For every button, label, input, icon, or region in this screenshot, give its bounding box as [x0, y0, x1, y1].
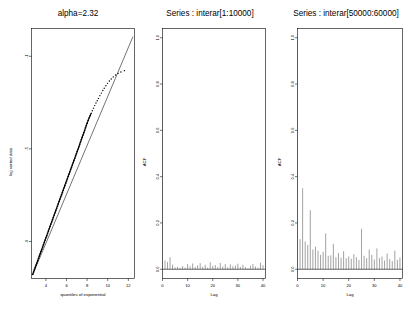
qq-data-point — [98, 98, 99, 99]
acf1-y-tick-label: 0.4 — [155, 173, 160, 179]
acf2-y-axis-label: ACF — [277, 157, 282, 166]
acf1-x-axis-ticks: 010203040 — [161, 279, 266, 288]
acf2-y-tick-label: 0.2 — [290, 219, 295, 225]
acf1-y-tick-label: 0.2 — [155, 219, 160, 225]
qq-data-points — [32, 70, 125, 275]
acf1-y-tick-label: 1.0 — [155, 34, 160, 40]
acf2-y-tick-label: 0.6 — [290, 127, 295, 133]
acf1-title: Series : interar[1:10000] — [166, 9, 253, 18]
qq-data-point — [91, 113, 92, 114]
qq-data-point — [107, 83, 108, 84]
acf2-x-tick-label: 10 — [321, 283, 326, 288]
acf2-x-axis-ticks: 010203040 — [296, 279, 403, 288]
figure-canvas: alpha=2.32 -1-5-9 4681012 quantiles of e… — [0, 0, 412, 321]
acf2-x-tick-label: 40 — [398, 283, 403, 288]
acf2-x-tick-label: 30 — [372, 283, 377, 288]
qq-data-point — [109, 80, 110, 81]
panel-acf-series-2: Series : interar[50000:60000] 0.00.20.40… — [273, 0, 412, 321]
acf1-y-axis-label: ACF — [142, 157, 147, 166]
panel-acf-series-1: Series : interar[1:10000] 0.00.20.40.60.… — [138, 0, 275, 321]
acf1-x-tick-label: 20 — [210, 283, 215, 288]
qq-x-tick-label: 12 — [126, 283, 131, 288]
qq-data-point — [101, 92, 102, 93]
acf2-bars — [298, 38, 400, 269]
acf2-y-axis-ticks: 0.00.20.40.60.81.0 — [290, 34, 298, 272]
acf1-y-tick-label: 0.8 — [155, 80, 160, 86]
acf2-frame — [298, 29, 403, 279]
qq-x-axis-label: quantiles of exponential — [60, 292, 105, 297]
qq-data-point — [113, 76, 114, 77]
qq-y-axis-ticks: -1-5-9 — [24, 54, 32, 244]
qq-y-tick-label: -1 — [24, 54, 29, 58]
acf2-x-tick-label: 0 — [296, 283, 299, 288]
qq-data-point — [93, 107, 94, 108]
qq-y-axis-label: log sorted data — [8, 147, 13, 176]
acf2-y-tick-label: 0.8 — [290, 80, 295, 86]
qq-y-tick-label: -5 — [24, 146, 29, 150]
qq-y-tick-label: -9 — [24, 239, 29, 243]
qq-data-point — [102, 90, 103, 91]
qq-reference-line — [33, 37, 133, 275]
acf1-frame — [163, 29, 266, 279]
qq-plot-title: alpha=2.32 — [58, 9, 99, 18]
qq-data-point — [115, 74, 116, 75]
acf2-y-tick-label: 0.4 — [290, 173, 295, 179]
acf1-svg: Series : interar[1:10000] 0.00.20.40.60.… — [138, 0, 275, 321]
qq-x-tick-label: 10 — [105, 283, 110, 288]
qq-data-point — [124, 70, 125, 71]
acf2-title: Series : interar[50000:60000] — [293, 9, 399, 18]
acf2-y-tick-label: 1.0 — [290, 34, 295, 40]
qq-data-point — [120, 71, 121, 72]
acf1-y-tick-label: 0.6 — [155, 127, 160, 133]
qq-x-tick-label: 6 — [65, 283, 68, 288]
acf1-x-tick-label: 0 — [161, 283, 164, 288]
qq-data-point — [95, 102, 96, 103]
acf2-y-tick-label: 0.0 — [290, 266, 295, 272]
qq-data-point — [111, 78, 112, 79]
qq-x-tick-label: 4 — [45, 283, 48, 288]
qq-data-point — [104, 88, 105, 89]
acf1-x-tick-label: 30 — [236, 283, 241, 288]
acf1-bars — [163, 38, 263, 269]
acf1-x-tick-label: 10 — [185, 283, 190, 288]
acf1-y-axis-ticks: 0.00.20.40.60.81.0 — [155, 34, 163, 272]
acf1-y-tick-label: 0.0 — [155, 266, 160, 272]
acf1-x-axis-label: Lag — [210, 292, 218, 297]
acf2-x-tick-label: 20 — [346, 283, 351, 288]
qq-data-point — [92, 110, 93, 111]
qq-x-tick-label: 8 — [86, 283, 89, 288]
acf1-x-tick-label: 40 — [261, 283, 266, 288]
qq-data-point — [105, 85, 106, 86]
qq-x-axis-ticks: 4681012 — [45, 279, 132, 288]
qq-data-point — [94, 105, 95, 106]
qq-data-point — [97, 100, 98, 101]
qq-plot-svg: alpha=2.32 -1-5-9 4681012 quantiles of e… — [0, 0, 140, 321]
qq-data-point — [117, 73, 118, 74]
panel-qq-plot: alpha=2.32 -1-5-9 4681012 quantiles of e… — [0, 0, 140, 321]
acf2-x-axis-label: Lag — [346, 292, 354, 297]
qq-data-point — [99, 95, 100, 96]
acf2-svg: Series : interar[50000:60000] 0.00.20.40… — [273, 0, 412, 321]
